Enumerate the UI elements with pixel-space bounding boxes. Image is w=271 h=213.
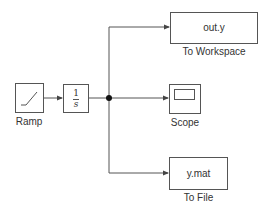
to-workspace-variable: out.y	[171, 22, 257, 33]
scope-screen-icon	[174, 89, 195, 100]
integrator-numerator: 1	[64, 89, 88, 98]
ramp-icon	[16, 84, 43, 112]
to-file-label: To File	[169, 192, 228, 203]
scope-block[interactable]	[169, 84, 201, 114]
scope-label: Scope	[163, 117, 207, 128]
to-file-block[interactable]: y.mat	[169, 157, 228, 190]
integrator-denominator: s	[64, 100, 88, 109]
branch-junction-dot	[106, 95, 112, 101]
simulink-diagram: Ramp 1 s out.y To Workspace Scope y.mat …	[0, 0, 271, 213]
to-workspace-label: To Workspace	[170, 46, 258, 57]
ramp-label: Ramp	[9, 116, 49, 127]
to-file-filename: y.mat	[170, 168, 227, 179]
to-workspace-block[interactable]: out.y	[170, 12, 258, 44]
integrator-block[interactable]: 1 s	[63, 84, 89, 113]
ramp-block[interactable]	[15, 83, 44, 113]
